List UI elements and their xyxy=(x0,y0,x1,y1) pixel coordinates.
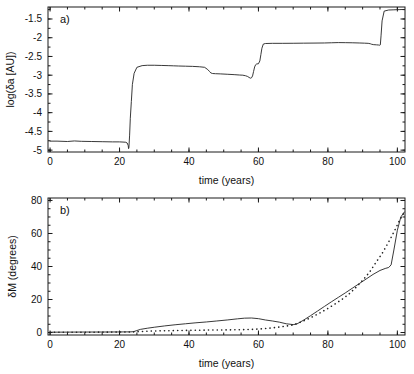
panel-letter: a) xyxy=(60,13,70,25)
y-tick-label: -1.5 xyxy=(25,13,43,24)
x-axis-label: time (years) xyxy=(199,174,254,186)
y-tick-label: 80 xyxy=(31,195,43,206)
y-tick-label: -3.5 xyxy=(25,88,43,99)
y-tick-label: -4.5 xyxy=(25,126,43,137)
x-tick-label: 60 xyxy=(253,156,265,167)
panel-a: 020406080100-1.5-2-2.5-3-3.5-4-4.5-5a)ti… xyxy=(4,7,406,186)
x-tick-label: 60 xyxy=(253,339,265,350)
x-tick-label: 40 xyxy=(183,156,195,167)
scientific-figure: 020406080100-1.5-2-2.5-3-3.5-4-4.5-5a)ti… xyxy=(0,0,414,374)
plot-frame xyxy=(48,7,405,152)
y-tick-label: -5 xyxy=(33,145,42,156)
x-tick-label: 40 xyxy=(183,339,195,350)
x-axis-label: time (years) xyxy=(199,357,254,369)
y-tick-label: 20 xyxy=(31,294,43,305)
x-tick-label: 0 xyxy=(47,339,53,350)
series-solid xyxy=(50,9,404,148)
x-tick-label: 100 xyxy=(389,156,406,167)
y-tick-label: 40 xyxy=(31,261,43,272)
y-tick-label: 60 xyxy=(31,228,43,239)
panel-b: 020406080100020406080b)time (years)δM (d… xyxy=(6,195,406,369)
x-tick-label: 80 xyxy=(322,156,334,167)
figure-container: 020406080100-1.5-2-2.5-3-3.5-4-4.5-5a)ti… xyxy=(0,0,414,374)
y-tick-label: -4 xyxy=(33,107,42,118)
x-tick-label: 20 xyxy=(114,156,126,167)
y-axis-label: log(δa [AU]) xyxy=(4,51,16,107)
y-tick-label: 0 xyxy=(36,327,42,338)
y-tick-label: -2.5 xyxy=(25,51,43,62)
y-tick-label: -3 xyxy=(33,70,42,81)
plot-frame xyxy=(48,198,405,335)
y-axis-label: δM (degrees) xyxy=(6,235,18,297)
y-tick-label: -2 xyxy=(33,32,42,43)
x-tick-label: 0 xyxy=(47,156,53,167)
series-dotted xyxy=(50,212,404,332)
x-tick-label: 20 xyxy=(114,339,126,350)
x-tick-label: 100 xyxy=(389,339,406,350)
panel-letter: b) xyxy=(60,204,70,216)
x-tick-label: 80 xyxy=(322,339,334,350)
series-solid xyxy=(50,212,404,332)
